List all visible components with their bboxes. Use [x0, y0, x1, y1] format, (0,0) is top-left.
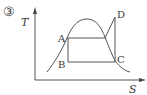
x-axis-label: S [129, 83, 137, 95]
figure-index-label: ③ [3, 4, 15, 19]
point-c-label: C [117, 54, 125, 65]
line-dome-to-d [105, 17, 115, 38]
ts-diagram: ③ T S A B C D [0, 0, 147, 95]
y-axis-label: T [21, 16, 30, 29]
point-d-label: D [117, 9, 125, 20]
y-axis-arrow-icon [33, 7, 37, 14]
point-a-label: A [57, 33, 66, 44]
point-b-label: B [58, 59, 65, 70]
x-axis-arrow-icon [139, 78, 146, 82]
